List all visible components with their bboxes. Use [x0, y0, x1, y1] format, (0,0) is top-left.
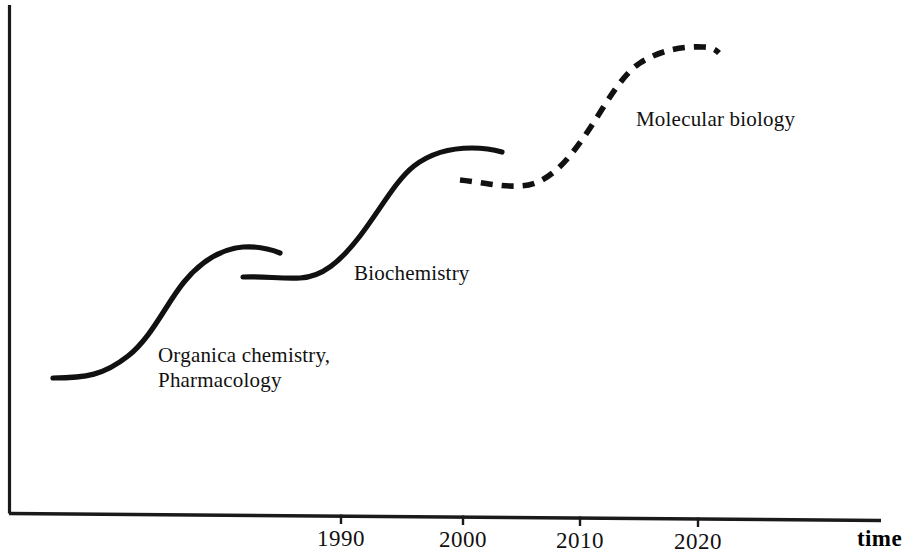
x-axis-title: time: [857, 526, 902, 552]
x-axis-tick-label-1990: 1990: [317, 526, 365, 552]
series-label-biochemistry: Biochemistry: [354, 261, 470, 286]
series-label-organic-chemistry: Organica chemistry, Pharmacology: [158, 343, 330, 393]
chart-canvas: Organica chemistry, Pharmacology Biochem…: [0, 0, 910, 560]
x-axis-tick-label-2020: 2020: [674, 529, 722, 555]
x-axis-tick-label-2000: 2000: [439, 527, 487, 553]
x-axis-tick-label-2010: 2010: [556, 528, 604, 554]
x-axis-line: [9, 514, 881, 521]
series-curve-biochemistry: [243, 148, 502, 278]
series-label-molecular-biology: Molecular biology: [636, 107, 795, 132]
